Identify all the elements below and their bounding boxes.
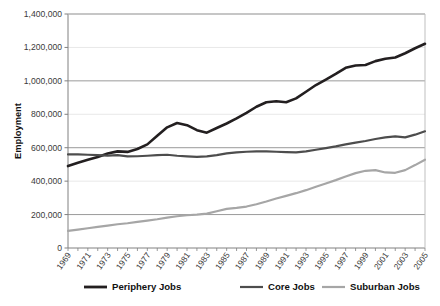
- plot-background: [68, 14, 425, 248]
- chart-legend: Periphery JobsCore JobsSuburban Jobs: [84, 281, 420, 292]
- y-axis-tick-label: 1,000,000: [24, 76, 62, 86]
- y-axis-tick-label: 400,000: [31, 176, 62, 186]
- x-axis-tick-label: 1997: [332, 250, 351, 271]
- x-axis-tick-label: 1979: [153, 250, 172, 271]
- x-axis-tick-label: 2001: [372, 250, 391, 271]
- y-axis-tick-label: 600,000: [31, 143, 62, 153]
- x-axis-tick-label: 2005: [411, 250, 430, 271]
- legend-label-suburban-jobs: Suburban Jobs: [350, 281, 420, 292]
- x-axis-tick-label: 1991: [272, 250, 291, 271]
- y-axis-title: Employment: [13, 103, 23, 159]
- y-axis-tick-label: 1,200,000: [24, 42, 62, 52]
- y-axis-tick-label: 1,400,000: [24, 9, 62, 19]
- y-axis-tick-labels: 0200,000400,000600,000800,0001,000,0001,…: [24, 9, 62, 253]
- chart-container: 0200,000400,000600,000800,0001,000,0001,…: [0, 0, 440, 306]
- x-axis-tick-label: 1989: [253, 250, 272, 271]
- x-axis-tick-label: 1995: [312, 250, 331, 271]
- y-axis-tick-label: 200,000: [31, 210, 62, 220]
- x-axis-tick-label: 2003: [391, 250, 410, 271]
- x-axis-tick-labels: 1969197119731975197719791981198319851987…: [54, 250, 430, 271]
- y-axis-tick-label: 0: [57, 243, 62, 253]
- x-axis-tick-label: 1971: [74, 250, 93, 271]
- x-axis-tick-label: 1981: [173, 250, 192, 271]
- x-axis-tick-label: 1985: [213, 250, 232, 271]
- y-axis-tick-label: 800,000: [31, 109, 62, 119]
- x-axis-tick-label: 1977: [134, 250, 153, 271]
- employment-line-chart: 0200,000400,000600,000800,0001,000,0001,…: [0, 0, 440, 306]
- x-axis-tick-label: 1993: [292, 250, 311, 271]
- legend-label-core-jobs: Core Jobs: [268, 281, 315, 292]
- legend-label-periphery-jobs: Periphery Jobs: [112, 281, 181, 292]
- x-axis-tick-label: 1987: [233, 250, 252, 271]
- x-axis-tick-label: 1975: [114, 250, 133, 271]
- x-axis-tick-label: 1983: [193, 250, 212, 271]
- y-axis-title-text: Employment: [13, 103, 23, 159]
- x-axis-tick-label: 1969: [54, 250, 73, 271]
- x-axis-tick-label: 1973: [94, 250, 113, 271]
- y-axis-tick-marks: [65, 14, 69, 248]
- x-axis-tick-label: 1999: [352, 250, 371, 271]
